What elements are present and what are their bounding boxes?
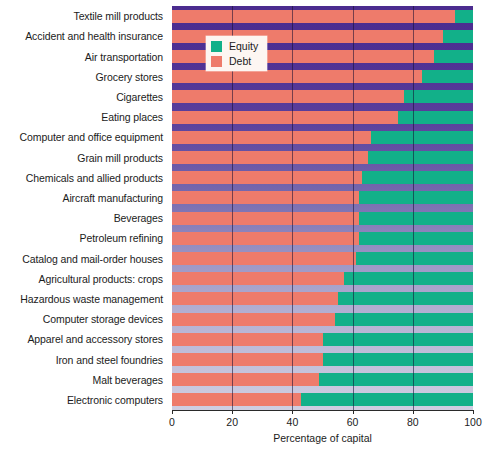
legend-entry: Debt	[211, 55, 258, 67]
category-axis-labels: Textile mill productsAccident and health…	[0, 6, 168, 410]
bar-row	[172, 168, 473, 188]
bar-segment-equity	[359, 232, 473, 245]
stacked-bar	[172, 313, 473, 326]
bar-segment-equity	[323, 353, 474, 366]
bar-segment-equity	[404, 90, 473, 103]
category-label: Cigarettes	[0, 87, 168, 107]
axis-tick-label: 20	[226, 416, 238, 428]
bar-segment-debt	[172, 10, 455, 23]
bar-row	[172, 147, 473, 167]
bar-segment-debt	[172, 353, 323, 366]
bar-segment-debt	[172, 212, 359, 225]
bar-row	[172, 127, 473, 147]
bar-row	[172, 248, 473, 268]
stacked-bar	[172, 131, 473, 144]
stacked-bar	[172, 292, 473, 305]
bar-segment-equity	[398, 111, 473, 124]
bar-row	[172, 208, 473, 228]
bar-segment-equity	[434, 50, 473, 63]
category-label: Aircraft manufacturing	[0, 188, 168, 208]
axis-tick	[353, 410, 354, 414]
legend-label: Debt	[229, 55, 251, 67]
bar-segment-equity	[338, 292, 473, 305]
category-label: Agricultural products: crops	[0, 269, 168, 289]
category-label: Iron and steel foundries	[0, 349, 168, 369]
bar-row	[172, 289, 473, 309]
category-label: Grain mill products	[0, 147, 168, 167]
bar-segment-debt	[172, 252, 356, 265]
stacked-bar	[172, 333, 473, 346]
bar-segment-equity	[362, 171, 473, 184]
bar-row	[172, 87, 473, 107]
stacked-bar	[172, 272, 473, 285]
category-label: Apparel and accessory stores	[0, 329, 168, 349]
bar-row	[172, 390, 473, 410]
axis-tick-label: 60	[347, 416, 359, 428]
x-axis-title: Percentage of capital	[172, 432, 473, 444]
bar-segment-equity	[455, 10, 473, 23]
bar-segment-debt	[172, 151, 368, 164]
bar-segment-debt	[172, 232, 359, 245]
category-label: Eating places	[0, 107, 168, 127]
category-label: Beverages	[0, 208, 168, 228]
bar-segment-equity	[422, 70, 473, 83]
legend-swatch	[211, 41, 222, 52]
chart-legend: EquityDebt	[206, 36, 267, 71]
x-axis: 020406080100	[172, 410, 473, 411]
bar-segment-debt	[172, 70, 422, 83]
category-label: Malt beverages	[0, 370, 168, 390]
axis-tick-label: 100	[464, 416, 482, 428]
bar-row	[172, 349, 473, 369]
category-label: Grocery stores	[0, 67, 168, 87]
axis-tick	[292, 410, 293, 414]
stacked-bar	[172, 10, 473, 23]
axis-tick-label: 80	[407, 416, 419, 428]
stacked-bar	[172, 151, 473, 164]
category-label: Textile mill products	[0, 6, 168, 26]
category-label: Accident and health insurance	[0, 26, 168, 46]
bar-segment-debt	[172, 191, 359, 204]
bar-segment-equity	[301, 393, 473, 406]
bar-segment-equity	[371, 131, 473, 144]
stacked-bar-chart: Textile mill productsAccident and health…	[0, 0, 500, 454]
stacked-bar	[172, 70, 473, 83]
bar-row	[172, 107, 473, 127]
axis-tick	[413, 410, 414, 414]
stacked-bar	[172, 393, 473, 406]
stacked-bar	[172, 111, 473, 124]
bar-segment-debt	[172, 393, 301, 406]
bar-segment-debt	[172, 90, 404, 103]
bar-row	[172, 329, 473, 349]
axis-tick	[232, 410, 233, 414]
bar-segment-debt	[172, 313, 335, 326]
bar-segment-equity	[344, 272, 473, 285]
bar-segment-equity	[359, 212, 473, 225]
stacked-bar	[172, 212, 473, 225]
bar-segment-debt	[172, 333, 323, 346]
bar-segment-equity	[323, 333, 474, 346]
legend-swatch	[211, 56, 222, 67]
stacked-bar	[172, 252, 473, 265]
category-label: Air transportation	[0, 46, 168, 66]
bar-segment-debt	[172, 292, 338, 305]
stacked-bar	[172, 171, 473, 184]
bar-row	[172, 228, 473, 248]
legend-entry: Equity	[211, 40, 258, 52]
stacked-bar	[172, 232, 473, 245]
category-label: Hazardous waste management	[0, 289, 168, 309]
bar-segment-equity	[319, 373, 473, 386]
bar-segment-equity	[443, 30, 473, 43]
legend-label: Equity	[229, 40, 258, 52]
bar-segment-equity	[356, 252, 473, 265]
stacked-bar	[172, 373, 473, 386]
bar-row	[172, 6, 473, 26]
axis-tick	[172, 410, 173, 414]
axis-tick-label: 0	[169, 416, 175, 428]
bar-segment-equity	[368, 151, 473, 164]
stacked-bar	[172, 353, 473, 366]
bar-segment-debt	[172, 373, 319, 386]
axis-tick-label: 40	[287, 416, 299, 428]
bar-segment-debt	[172, 272, 344, 285]
category-label: Chemicals and allied products	[0, 168, 168, 188]
bar-row	[172, 370, 473, 390]
